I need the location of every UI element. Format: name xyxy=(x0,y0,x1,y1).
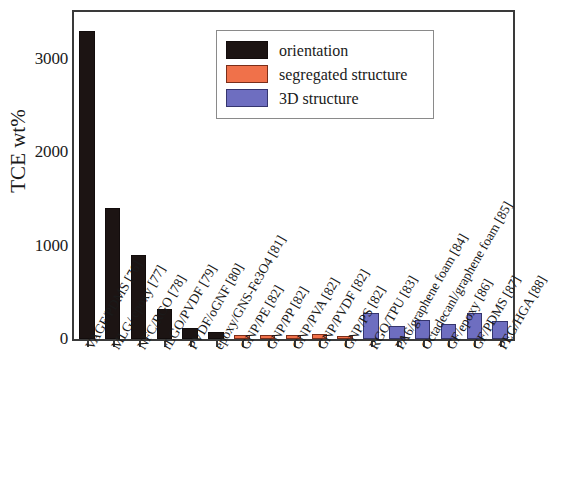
bar-chart-figure: TCE wt% 0100020003000 VAGF/PDMS [76]MLG/… xyxy=(0,0,564,504)
y-tick-label-text: 3000 xyxy=(6,50,68,67)
legend-label-orientation: orientation xyxy=(279,42,348,59)
y-tick-label-text: 2000 xyxy=(6,143,68,160)
legend-label-segregated: segregated structure xyxy=(279,66,407,83)
legend-swatch-segregated xyxy=(226,65,268,83)
legend-swatch-3d xyxy=(226,89,268,107)
bar xyxy=(79,31,94,339)
x-axis-labels: VAGF/PDMS [76]MLG/ epoxy [77]NFC/RGO [78… xyxy=(0,341,564,504)
legend-item-3d: 3D structure xyxy=(226,86,424,110)
legend-item-segregated: segregated structure xyxy=(226,62,424,86)
legend-label-3d: 3D structure xyxy=(279,90,359,107)
chart-legend: orientation segregated structure 3D stru… xyxy=(216,30,434,119)
legend-swatch-orientation xyxy=(226,41,268,59)
y-tick-label-text: 1000 xyxy=(6,237,68,254)
legend-item-orientation: orientation xyxy=(226,38,424,62)
